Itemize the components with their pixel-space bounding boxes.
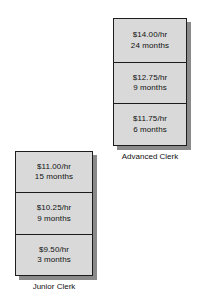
ladder-junior-clerk: $11.00/hr 15 months $10.25/hr 9 months $…	[15, 151, 97, 292]
pay-step-rate: $12.75/hr	[133, 73, 168, 84]
pay-step-rate: $10.25/hr	[37, 203, 72, 214]
pay-step-box: $12.75/hr 9 months	[114, 62, 186, 103]
pay-step-rate: $9.50/hr	[39, 245, 69, 256]
pay-step-duration: 9 months	[133, 83, 167, 94]
ladder-caption-junior-clerk: Junior Clerk	[15, 282, 93, 292]
pay-step-box: $14.00/hr 24 months	[114, 19, 186, 62]
ladder-advanced-clerk: $14.00/hr 24 months $12.75/hr 9 months $…	[113, 18, 191, 162]
pay-step-rate: $14.00/hr	[133, 30, 168, 41]
pay-step-duration: 6 months	[133, 125, 167, 136]
diagram-canvas: $14.00/hr 24 months $12.75/hr 9 months $…	[0, 0, 203, 300]
pay-step-duration: 9 months	[37, 214, 71, 225]
pay-step-duration: 15 months	[35, 172, 73, 183]
pay-step-rate: $11.75/hr	[133, 114, 167, 125]
pay-step-duration: 3 months	[37, 255, 71, 266]
ladder-caption-advanced-clerk: Advanced Clerk	[113, 152, 187, 162]
pay-step-rate: $11.00/hr	[37, 162, 71, 173]
junior-clerk-stack-body: $11.00/hr 15 months $10.25/hr 9 months $…	[15, 151, 93, 276]
pay-step-box: $11.75/hr 6 months	[114, 103, 186, 145]
pay-step-box: $11.00/hr 15 months	[16, 152, 92, 192]
advanced-clerk-stack-body: $14.00/hr 24 months $12.75/hr 9 months $…	[113, 18, 187, 146]
junior-clerk-stack: $11.00/hr 15 months $10.25/hr 9 months $…	[15, 151, 97, 276]
pay-step-duration: 24 months	[131, 41, 169, 52]
pay-step-box: $10.25/hr 9 months	[16, 192, 92, 234]
pay-step-box: $9.50/hr 3 months	[16, 234, 92, 275]
advanced-clerk-stack: $14.00/hr 24 months $12.75/hr 9 months $…	[113, 18, 191, 146]
